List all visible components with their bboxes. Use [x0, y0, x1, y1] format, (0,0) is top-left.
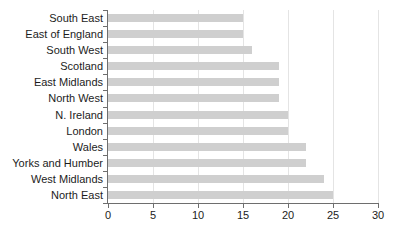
- x-axis-tick: [198, 203, 199, 208]
- category-label: East of England: [7, 28, 107, 40]
- x-axis-tick-label: 0: [88, 209, 128, 222]
- bar: [108, 94, 279, 102]
- x-axis-tick-label: 30: [358, 209, 396, 222]
- x-axis-tick-label: 10: [178, 209, 218, 222]
- x-axis-tick: [378, 203, 379, 208]
- bar: [108, 127, 288, 135]
- bar: [108, 30, 243, 38]
- bar-chart: 051015202530 South EastEast of EnglandSo…: [0, 0, 396, 233]
- bar: [108, 143, 306, 151]
- bar: [108, 175, 324, 183]
- category-label: North West: [7, 92, 107, 104]
- category-label: Scotland: [7, 60, 107, 72]
- bar: [108, 62, 279, 70]
- category-label: Yorks and Humber: [7, 157, 107, 169]
- category-label: London: [7, 125, 107, 137]
- category-label: South East: [7, 12, 107, 24]
- category-label: East Midlands: [7, 76, 107, 88]
- x-axis-tick: [108, 203, 109, 208]
- x-axis-tick-label: 15: [223, 209, 263, 222]
- bar: [108, 46, 252, 54]
- bar: [108, 14, 243, 22]
- category-label: N. Ireland: [7, 109, 107, 121]
- bar: [108, 191, 333, 199]
- bar-series: [108, 10, 378, 203]
- gridline-30: [378, 10, 379, 203]
- x-axis-tick: [288, 203, 289, 208]
- y-axis-category-labels: South EastEast of EnglandSouth WestScotl…: [0, 10, 107, 203]
- bar: [108, 159, 306, 167]
- x-axis-tick: [333, 203, 334, 208]
- x-axis-tick-label: 20: [268, 209, 308, 222]
- category-label: North East: [7, 189, 107, 201]
- category-label: Wales: [7, 141, 107, 153]
- bar: [108, 78, 279, 86]
- x-axis-tick: [153, 203, 154, 208]
- category-label: West Midlands: [7, 173, 107, 185]
- bar: [108, 111, 288, 119]
- x-axis-tick: [243, 203, 244, 208]
- x-axis-tick-label: 25: [313, 209, 353, 222]
- x-axis-tick-label: 5: [133, 209, 173, 222]
- category-label: South West: [7, 44, 107, 56]
